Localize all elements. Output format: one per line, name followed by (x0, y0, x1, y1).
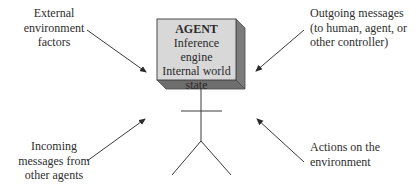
agent-diagram: AGENT Inference engine Internal world st… (0, 0, 419, 185)
arrow-outgoing-to-agent (256, 30, 304, 71)
stick-figure-icon (172, 89, 231, 175)
arrow-incoming-to-agent (87, 119, 145, 161)
label-line: Incoming (14, 139, 94, 154)
label-actions-on-environment: Actions on the environment (310, 140, 380, 169)
label-incoming-messages: Incoming messages from other agents (14, 139, 94, 183)
label-external-environment-factors: External environment factors (18, 6, 90, 50)
label-line: factors (18, 35, 90, 50)
arrow-actions-to-agent (257, 119, 304, 162)
agent-box-text: AGENT Inference engine Internal world st… (157, 19, 236, 81)
label-line: (to human, agent, or (310, 21, 407, 36)
label-line: External (18, 6, 90, 21)
label-line: messages from (14, 154, 94, 169)
label-line: other controller) (310, 35, 407, 50)
label-outgoing-messages: Outgoing messages (to human, agent, or o… (310, 6, 407, 50)
agent-line-1: Inference engine (157, 36, 236, 64)
agent-line-2: Internal world (157, 64, 236, 78)
agent-title: AGENT (157, 22, 236, 36)
arrow-external-to-agent (87, 30, 146, 72)
label-line: other agents (14, 168, 94, 183)
label-line: Actions on the (310, 140, 380, 155)
label-line: environment (18, 21, 90, 36)
box-side-face (236, 19, 245, 89)
label-line: environment (310, 155, 380, 170)
label-line: Outgoing messages (310, 6, 407, 21)
agent-line-3: state (157, 78, 236, 92)
